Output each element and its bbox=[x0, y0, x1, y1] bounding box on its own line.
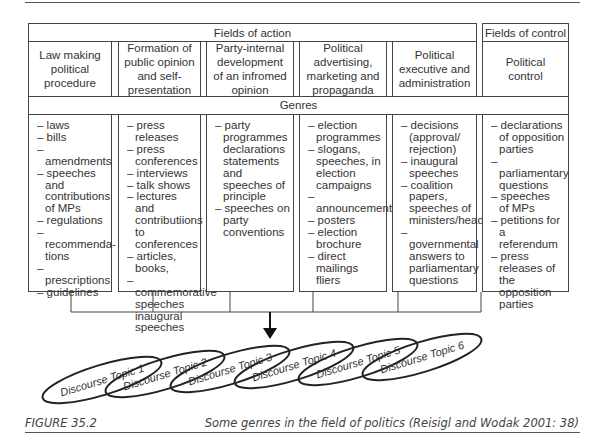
arrow-head-icon bbox=[263, 328, 277, 339]
figure-caption: Some genres in the field of politics (Re… bbox=[205, 416, 579, 430]
figure-label: FIGURE 35.2 bbox=[25, 416, 97, 430]
connector-graphics: Discourse Topic 1Discourse Topic 2Discou… bbox=[0, 0, 595, 440]
